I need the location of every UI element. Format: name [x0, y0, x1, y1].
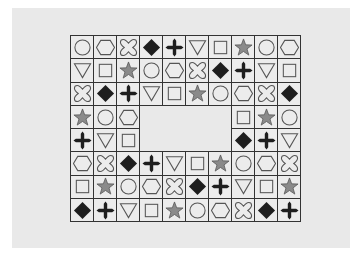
grid-cell — [186, 83, 209, 106]
symbol-grid — [70, 35, 301, 222]
empty-cell — [140, 106, 163, 129]
grid-cell — [94, 152, 117, 175]
plus-icon — [257, 131, 276, 150]
cross-icon — [257, 84, 276, 103]
plus-icon — [234, 61, 253, 80]
grid-cell — [71, 129, 94, 152]
grid-cell — [140, 36, 163, 59]
grid-cell — [94, 199, 117, 222]
grid-cell — [117, 59, 140, 82]
grid-cell — [255, 199, 278, 222]
hexagon-icon — [257, 154, 276, 173]
grid-cell — [232, 106, 255, 129]
triangle-icon — [188, 38, 207, 57]
circle-icon — [211, 84, 230, 103]
square-icon — [119, 131, 138, 150]
cross-icon — [188, 61, 207, 80]
square-icon — [96, 61, 115, 80]
grid-cell — [117, 176, 140, 199]
grid-cell — [117, 199, 140, 222]
grid-cell — [71, 176, 94, 199]
grid-cell — [278, 106, 301, 129]
diamond-icon — [119, 154, 138, 173]
grid-cell — [255, 36, 278, 59]
hexagon-icon — [280, 38, 299, 57]
grid-cell — [163, 36, 186, 59]
square-icon — [257, 177, 276, 196]
cross-icon — [234, 201, 253, 220]
triangle-icon — [234, 177, 253, 196]
diamond-icon — [73, 201, 92, 220]
triangle-icon — [257, 61, 276, 80]
grid-cell — [278, 152, 301, 175]
grid-cell — [117, 152, 140, 175]
grid-cell — [163, 152, 186, 175]
triangle-icon — [280, 131, 299, 150]
empty-cell — [186, 129, 209, 152]
grid-cell — [232, 152, 255, 175]
plus-icon — [280, 201, 299, 220]
star-icon — [234, 38, 253, 57]
empty-cell — [140, 129, 163, 152]
star-icon — [73, 108, 92, 127]
grid-cell — [117, 129, 140, 152]
grid-cell — [278, 129, 301, 152]
star-icon — [280, 177, 299, 196]
grid-cell — [71, 59, 94, 82]
grid-cell — [163, 59, 186, 82]
empty-cell — [163, 129, 186, 152]
grid-cell — [209, 36, 232, 59]
square-icon — [234, 108, 253, 127]
grid-cell — [94, 36, 117, 59]
grid-cell — [278, 176, 301, 199]
grid-cell — [140, 176, 163, 199]
grid-cell — [94, 129, 117, 152]
hexagon-icon — [96, 38, 115, 57]
star-icon — [188, 84, 207, 103]
grid-cell — [186, 36, 209, 59]
empty-cell — [186, 106, 209, 129]
grid-cell — [209, 83, 232, 106]
plus-icon — [142, 154, 161, 173]
triangle-icon — [96, 131, 115, 150]
cross-icon — [73, 84, 92, 103]
circle-icon — [142, 61, 161, 80]
square-icon — [211, 38, 230, 57]
plus-icon — [73, 131, 92, 150]
hexagon-icon — [165, 61, 184, 80]
diamond-icon — [280, 84, 299, 103]
grid-cell — [117, 36, 140, 59]
empty-cell — [209, 106, 232, 129]
hexagon-icon — [142, 177, 161, 196]
grid-cell — [255, 83, 278, 106]
grid-cell — [71, 83, 94, 106]
square-icon — [73, 177, 92, 196]
star-icon — [96, 177, 115, 196]
circle-icon — [257, 38, 276, 57]
grid-cell — [71, 106, 94, 129]
cross-icon — [96, 154, 115, 173]
grid-cell — [163, 83, 186, 106]
grid-cell — [232, 129, 255, 152]
grid-cell — [278, 199, 301, 222]
grid-cell — [232, 83, 255, 106]
grid-cell — [140, 83, 163, 106]
square-icon — [165, 84, 184, 103]
hexagon-icon — [211, 201, 230, 220]
grid-cell — [140, 152, 163, 175]
plus-icon — [211, 177, 230, 196]
grid-cell — [209, 152, 232, 175]
plus-icon — [96, 201, 115, 220]
grid-cell — [94, 59, 117, 82]
grid-cell — [163, 199, 186, 222]
grid-cell — [278, 83, 301, 106]
square-icon — [280, 61, 299, 80]
circle-icon — [234, 154, 253, 173]
grid-cell — [232, 59, 255, 82]
grid-cell — [255, 129, 278, 152]
cross-icon — [165, 177, 184, 196]
grid-cell — [186, 59, 209, 82]
diamond-icon — [188, 177, 207, 196]
circle-icon — [96, 108, 115, 127]
grid-cell — [71, 36, 94, 59]
